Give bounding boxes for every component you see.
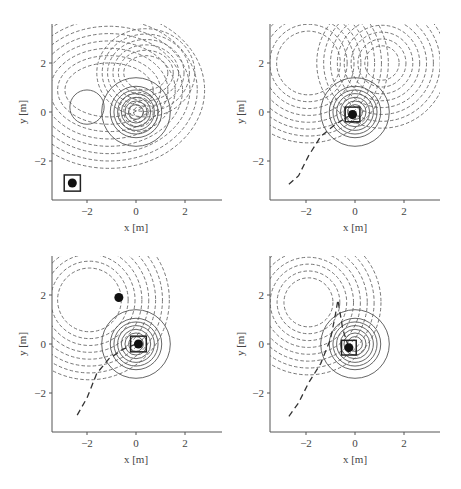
robot-marker [134, 340, 143, 349]
solid-contour [129, 105, 144, 120]
y-tick-label: 2 [41, 289, 47, 301]
y-axis-label: y [m] [16, 332, 28, 356]
panel-bottom-left: −202−202x [m]y [m] [10, 220, 222, 465]
x-tick-label: 0 [352, 437, 358, 449]
dashed-contour [21, 19, 197, 161]
dashed-contour [257, 250, 361, 354]
panel-bottom-right: −202−202x [m]y [m] [234, 230, 440, 465]
y-tick-label: 0 [41, 338, 47, 350]
panel-top-left: −202−202x [m]y [m] [14, 12, 223, 233]
y-tick-label: 2 [259, 57, 265, 69]
dashed-contour [102, 34, 189, 111]
dashed-contour [351, 32, 413, 94]
x-axis-label: x [m] [124, 453, 148, 465]
x-tick-label: −2 [81, 437, 93, 449]
y-tick-label: 0 [259, 106, 265, 118]
dashed-contour [43, 41, 175, 139]
x-tick-label: 0 [133, 437, 139, 449]
robot-marker [68, 179, 77, 188]
solid-contour [321, 310, 390, 379]
x-tick-label: 0 [133, 205, 139, 217]
dashed-contour [124, 56, 168, 90]
dashed-contour [37, 247, 142, 352]
y-tick-label: 2 [41, 57, 47, 69]
robot-marker [348, 110, 357, 119]
solid-contour [121, 97, 150, 126]
panel-top-right: −202−202x [m]y [m] [229, 0, 448, 233]
x-tick-label: −2 [81, 205, 93, 217]
dashed-contour [344, 25, 419, 100]
x-axis-label: x [m] [343, 453, 367, 465]
y-tick-label: −2 [34, 155, 46, 167]
robot-marker [344, 343, 353, 352]
dashed-contour [249, 4, 368, 123]
y-tick-label: 2 [259, 289, 265, 301]
dashed-contour [284, 278, 333, 327]
x-axis-label: x [m] [343, 221, 367, 233]
dashed-contour [58, 268, 122, 332]
dashed-contour [14, 12, 205, 169]
dashed-contour [365, 46, 399, 80]
x-tick-label: 2 [401, 437, 407, 449]
trajectory-path [289, 115, 353, 185]
dashed-contour [229, 0, 389, 143]
y-axis-label: y [m] [234, 332, 246, 356]
plot-area [10, 220, 171, 415]
x-tick-label: 2 [401, 205, 407, 217]
dashed-contour [270, 24, 347, 101]
x-tick-label: −2 [300, 205, 312, 217]
y-tick-label: −2 [252, 155, 264, 167]
x-axis-label: x [m] [124, 221, 148, 233]
dashed-contour [270, 264, 346, 340]
dashed-contour [317, 0, 447, 128]
dashed-contour [277, 271, 340, 334]
y-axis-label: y [m] [234, 100, 246, 124]
y-tick-label: −2 [252, 387, 264, 399]
x-tick-label: 0 [352, 205, 358, 217]
y-tick-label: 0 [259, 338, 265, 350]
x-tick-label: 2 [182, 437, 188, 449]
figure: −202−202x [m]y [m]−202−202x [m]y [m]−202… [0, 0, 461, 489]
dashed-contour [256, 11, 361, 116]
x-tick-label: 2 [182, 205, 188, 217]
target-marker [114, 293, 123, 302]
y-axis-label: y [m] [16, 100, 28, 124]
y-tick-label: −2 [34, 387, 46, 399]
dashed-contour [16, 227, 162, 373]
y-tick-label: 0 [41, 106, 47, 118]
dashed-contour [236, 230, 381, 375]
trajectory-path [289, 300, 349, 416]
x-tick-label: −2 [300, 437, 312, 449]
